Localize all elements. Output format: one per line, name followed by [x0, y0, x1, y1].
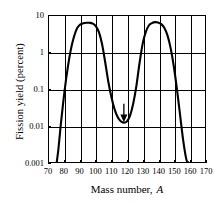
x-axis-tick-mark: [174, 160, 175, 163]
x-axis-tick-mark: [127, 160, 128, 163]
y-axis-tick-label: 10: [0, 10, 44, 20]
x-axis-tick-label: 170: [196, 166, 214, 176]
x-axis-tick-mark: [48, 160, 49, 163]
x-axis-tick-mark: [159, 160, 160, 163]
x-axis-tick-mark: [80, 160, 81, 163]
y-axis-tick-mark: [48, 15, 51, 16]
x-axis-title-italic: A: [157, 183, 164, 195]
y-axis-tick-label: 0.01: [0, 121, 44, 131]
x-axis-tick-mark: [190, 160, 191, 163]
x-axis-tick-mark: [111, 160, 112, 163]
x-axis-tick-mark: [64, 160, 65, 163]
x-axis-tick-mark: [206, 160, 207, 163]
fission-yield-chart: Fission yield (percent) 0.0010.010.11107…: [0, 0, 214, 204]
y-axis-tick-mark: [48, 163, 51, 164]
minimum-arrow-annotation: [49, 16, 205, 162]
y-axis-tick-label: 1: [0, 47, 44, 57]
y-axis-tick-mark: [48, 126, 51, 127]
y-axis-tick-mark: [48, 89, 51, 90]
y-axis-tick-mark: [48, 52, 51, 53]
arrow-head: [121, 115, 126, 121]
x-axis-title-main: Mass number,: [91, 183, 153, 195]
x-axis-tick-mark: [95, 160, 96, 163]
y-axis-tick-label: 0.1: [0, 84, 44, 94]
plot-area: [48, 15, 206, 163]
x-axis-tick-mark: [143, 160, 144, 163]
x-axis-title: Mass number,A: [48, 183, 206, 195]
